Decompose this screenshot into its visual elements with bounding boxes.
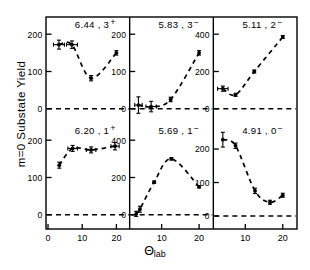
data-marker xyxy=(197,51,201,55)
x-tick-label: 10 xyxy=(157,233,167,243)
panel-label-parity: − xyxy=(277,17,282,27)
trend-curve xyxy=(223,140,283,203)
data-marker xyxy=(57,163,61,167)
x-tick-label: 20 xyxy=(278,233,288,243)
panel-label-text: 5.83 , 3 xyxy=(158,19,192,30)
y-tick-label: 100 xyxy=(28,67,43,77)
data-point xyxy=(234,93,238,97)
y-tick-label: 400 xyxy=(111,136,126,146)
data-marker xyxy=(134,212,138,216)
data-marker xyxy=(252,70,256,74)
data-point xyxy=(89,76,93,81)
panel-label-parity: − xyxy=(194,123,199,133)
trend-curve xyxy=(223,37,283,95)
y-tick-label: 200 xyxy=(111,173,126,183)
y-tick-label: 0 xyxy=(38,104,43,114)
data-marker xyxy=(268,200,272,204)
data-point xyxy=(281,35,285,39)
panel-label-text: 6.44 , 3 xyxy=(75,19,109,30)
y-tick-label: 0 xyxy=(205,104,210,114)
data-marker xyxy=(234,93,238,97)
panel-label: 5.83 , 3− xyxy=(158,17,199,31)
panel-label-parity: − xyxy=(194,17,199,27)
data-point xyxy=(135,97,142,113)
x-axis-label: Θlab xyxy=(0,244,310,259)
x-tick-label: 20 xyxy=(111,233,121,243)
data-point xyxy=(146,101,156,111)
panel-label-text: 5.69 , 1 xyxy=(158,125,192,136)
data-point xyxy=(169,157,173,161)
data-marker xyxy=(115,51,119,55)
figure-root: m=0 Substate Yield 01002006.44 , 3+01002… xyxy=(0,0,310,270)
data-marker xyxy=(281,35,285,39)
x-axis-label-symbol: Θ xyxy=(144,244,154,258)
panel-label: 6.44 , 3+ xyxy=(75,17,116,31)
data-marker xyxy=(137,103,141,107)
data-marker xyxy=(149,105,153,109)
x-axis-label-subscript: lab xyxy=(154,249,166,259)
y-tick-label: 200 xyxy=(28,136,43,146)
data-marker xyxy=(169,157,173,161)
y-tick-label: 0 xyxy=(121,210,126,220)
data-point xyxy=(268,200,272,204)
data-marker xyxy=(57,43,61,47)
data-marker xyxy=(253,189,257,193)
y-tick-label: 0 xyxy=(121,104,126,114)
data-marker xyxy=(221,138,225,142)
y-tick-label: 200 xyxy=(111,30,126,40)
data-marker xyxy=(70,43,74,47)
trend-curve xyxy=(59,42,116,78)
x-tick-label: 0 xyxy=(45,233,50,243)
y-tick-label: 200 xyxy=(195,67,210,77)
data-marker xyxy=(169,98,173,102)
data-point xyxy=(53,40,64,49)
trend-curve xyxy=(136,159,199,214)
y-tick-label: 0 xyxy=(38,210,43,220)
panel-label: 4.91 , 0− xyxy=(242,123,283,137)
y-tick-label: 200 xyxy=(28,30,43,40)
data-point xyxy=(152,180,156,184)
data-marker xyxy=(152,180,156,184)
data-point xyxy=(252,70,256,74)
y-tick-label: 100 xyxy=(111,67,126,77)
data-marker xyxy=(89,76,93,80)
data-marker xyxy=(281,193,285,197)
data-point xyxy=(218,86,228,91)
x-tick-label: 10 xyxy=(240,233,250,243)
y-tick-label: 0 xyxy=(205,211,210,221)
trend-curve xyxy=(138,53,199,107)
y-tick-label: 400 xyxy=(195,30,210,40)
panel-label-text: 4.91 , 0 xyxy=(242,125,276,136)
y-axis-label: m=0 Substate Yield xyxy=(15,39,27,189)
y-tick-label: 100 xyxy=(28,173,43,183)
data-marker xyxy=(138,207,142,211)
y-tick-label: 100 xyxy=(195,178,210,188)
panel-3: 02004005.11 , 2− xyxy=(195,17,296,115)
x-tick-label: 10 xyxy=(77,233,87,243)
multi-panel-plot: 01002006.44 , 3+01002005.83 , 3−02004005… xyxy=(0,0,310,270)
panel-label-parity: − xyxy=(278,123,283,133)
panel-label-text: 5.11 , 2 xyxy=(242,19,276,30)
panel-6: 010020010204.91 , 0− xyxy=(195,123,296,244)
data-marker xyxy=(234,144,238,148)
panel-label-text: 6.20 , 1 xyxy=(75,125,109,136)
data-marker xyxy=(221,87,225,91)
data-point xyxy=(86,147,96,153)
panel-label: 6.20 , 1+ xyxy=(75,123,116,137)
x-tick-label: 20 xyxy=(194,233,204,243)
panel-label-parity: + xyxy=(110,17,115,27)
panel-label-parity: + xyxy=(110,123,115,133)
data-marker xyxy=(71,147,75,151)
data-point xyxy=(221,132,225,147)
y-tick-label: 200 xyxy=(195,144,210,154)
data-marker xyxy=(89,148,93,152)
panel-label: 5.11 , 2− xyxy=(242,17,282,31)
panel-label: 5.69 , 1− xyxy=(158,123,199,137)
